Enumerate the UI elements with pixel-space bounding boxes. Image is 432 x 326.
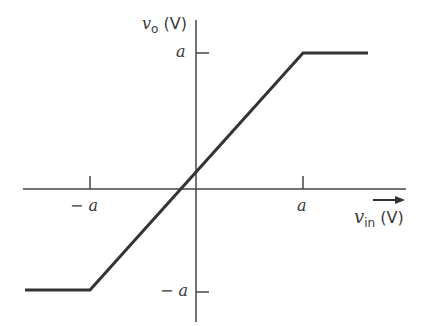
x-tick-label-neg-a: − a [70,196,98,215]
x-axis-sub: in [364,216,375,230]
chart-canvas [0,0,432,326]
y-tick-label-pos-a: a [176,42,186,61]
y-tick-label-neg-a: − a [160,281,188,300]
y-axis-sub: o [151,22,158,36]
y-axis-label: vo (V) [142,14,187,33]
x-axis-label: vin (V) [354,206,404,227]
y-axis-var: v [142,14,151,33]
x-tick-label-pos-a: a [297,196,307,215]
y-axis-unit: (V) [163,14,186,33]
x-axis-unit: (V) [380,208,403,227]
x-axis-var: v [354,206,364,227]
x-direction-arrow-icon [395,196,405,204]
